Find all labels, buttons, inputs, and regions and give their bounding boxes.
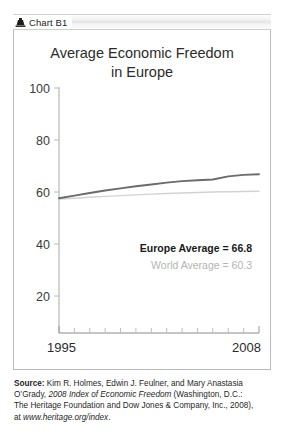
- chart-plot: 100 80 60 40 20: [14, 30, 272, 370]
- source-note: Source: Kim R. Holmes, Edwin J. Feulner,…: [14, 378, 272, 423]
- source-line-4: at www.heritage.org/index.: [14, 412, 272, 423]
- chart-header-label: Chart B1: [29, 17, 67, 28]
- source-line-2-b: (Washington, D.C.:: [171, 390, 242, 399]
- chart-panel: Average Economic Freedom in Europe 100 8…: [13, 30, 271, 370]
- source-line-4-b: .: [108, 413, 110, 422]
- chart-header-label-group: Chart B1: [13, 15, 72, 29]
- source-line-2-a: O’Grady,: [14, 390, 48, 399]
- y-tick-label-20: 20: [36, 290, 50, 304]
- annotation-europe-average: Europe Average = 66.8: [140, 242, 252, 254]
- chart-header-bar: Chart B1: [13, 14, 271, 30]
- source-label: Source:: [14, 379, 44, 388]
- y-tick-label-40: 40: [36, 238, 50, 252]
- y-tick-label-100: 100: [29, 82, 50, 96]
- y-tick-label-60: 60: [36, 186, 50, 200]
- y-tick-label-80: 80: [36, 134, 50, 148]
- source-line-2: O’Grady, 2008 Index of Economic Freedom …: [14, 389, 272, 400]
- chart-marker-icon: [15, 17, 26, 28]
- x-tick-label-end: 2008: [232, 340, 261, 355]
- source-line-1-text: Kim R. Holmes, Edwin J. Feulner, and Mar…: [44, 379, 242, 388]
- chart-figure: Chart B1 Average Economic Freedom in Eur…: [0, 0, 284, 446]
- series-line-europe-average: [59, 174, 259, 198]
- y-axis-ticks: [54, 88, 59, 296]
- annotation-world-average: World Average = 60.3: [151, 259, 252, 271]
- source-line-3: The Heritage Foundation and Dow Jones & …: [14, 400, 272, 411]
- source-publication-title: 2008 Index of Economic Freedom: [48, 390, 171, 399]
- source-url: www.heritage.org/index: [23, 413, 108, 422]
- x-axis-ticks: [59, 326, 259, 333]
- source-line-1: Source: Kim R. Holmes, Edwin J. Feulner,…: [14, 378, 272, 389]
- source-line-4-a: at: [14, 413, 23, 422]
- x-tick-label-start: 1995: [47, 340, 76, 355]
